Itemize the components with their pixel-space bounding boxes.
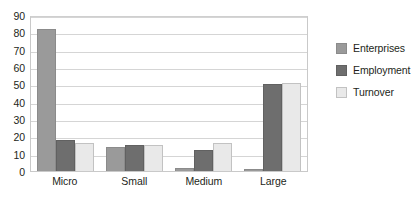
bar-employment-medium xyxy=(194,150,213,171)
bar-group-small xyxy=(104,17,166,171)
legend-item-turnover[interactable]: Turnover xyxy=(336,82,420,102)
bar-employment-small xyxy=(125,145,144,171)
y-axis-tick-label: 0 xyxy=(19,167,25,177)
bar-group-medium xyxy=(173,17,235,171)
legend-label: Employment xyxy=(353,65,410,76)
y-axis-tick-label: 20 xyxy=(14,132,25,142)
x-axis-tick-label-small: Small xyxy=(103,174,165,194)
legend-item-employment[interactable]: Employment xyxy=(336,60,420,80)
plot-area xyxy=(30,16,308,172)
bar-turnover-small xyxy=(144,145,163,171)
y-axis-tick-label: 40 xyxy=(14,98,25,108)
bar-chart: 9080706050403020100 MicroSmallMediumLarg… xyxy=(0,0,420,199)
bar-enterprises-micro xyxy=(37,29,56,171)
y-axis-tick-label: 60 xyxy=(14,63,25,73)
bar-turnover-large xyxy=(282,83,301,171)
x-axis-tick-label-micro: Micro xyxy=(34,174,96,194)
bar-enterprises-small xyxy=(106,147,125,171)
x-axis-tick-label-medium: Medium xyxy=(173,174,235,194)
legend-swatch-icon-enterprises xyxy=(336,43,347,54)
legend-swatch-icon-turnover xyxy=(336,87,347,98)
y-axis-tick-label: 10 xyxy=(14,150,25,160)
y-axis-tick-label: 90 xyxy=(14,11,25,21)
bar-group-micro xyxy=(35,17,97,171)
x-axis-tick-label-large: Large xyxy=(242,174,304,194)
bar-employment-micro xyxy=(56,140,75,171)
bar-turnover-micro xyxy=(75,143,94,171)
bars-layer xyxy=(31,17,307,171)
bar-enterprises-large xyxy=(244,169,263,171)
y-axis: 9080706050403020100 xyxy=(0,0,28,175)
chart-legend: EnterprisesEmploymentTurnover xyxy=(336,38,420,104)
bar-enterprises-medium xyxy=(175,168,194,171)
y-axis-tick-label: 30 xyxy=(14,115,25,125)
y-axis-tick-label: 80 xyxy=(14,28,25,38)
legend-swatch-icon-employment xyxy=(336,65,347,76)
y-axis-tick-label: 70 xyxy=(14,46,25,56)
legend-item-enterprises[interactable]: Enterprises xyxy=(336,38,420,58)
bar-group-large xyxy=(242,17,304,171)
bar-employment-large xyxy=(263,84,282,171)
legend-label: Enterprises xyxy=(353,43,405,54)
bar-turnover-medium xyxy=(213,143,232,171)
x-axis: MicroSmallMediumLarge xyxy=(30,174,308,194)
legend-label: Turnover xyxy=(353,87,394,98)
y-axis-tick-label: 50 xyxy=(14,80,25,90)
